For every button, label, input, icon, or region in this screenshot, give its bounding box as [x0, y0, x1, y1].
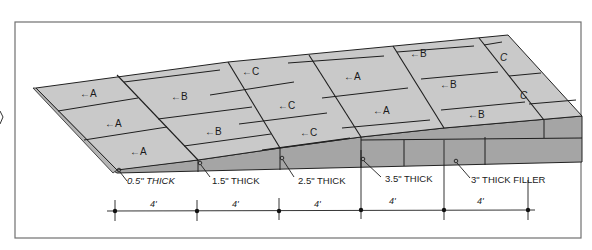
thickness-label: 1.5" THICK — [212, 175, 260, 186]
dimension-label: 4' — [389, 196, 396, 206]
panel-label: ←A — [80, 88, 97, 99]
ramp-diagram: ←A ←A ←A ←B ←B ←C ←C ←C ←A ←A ←B ←B ←B C… — [0, 0, 592, 250]
panel-label: ←C — [278, 100, 295, 111]
dimension-label: 4' — [232, 199, 239, 209]
thickness-label: 3" THICK FILLER — [471, 174, 546, 185]
thickness-label: 0.5" THICK — [127, 175, 175, 186]
panel-label: C — [500, 52, 508, 63]
panel-label: ←B — [410, 48, 427, 59]
dimension-label: 4' — [314, 199, 321, 209]
panel-label: ←A — [105, 118, 122, 129]
panel-label: ←B — [205, 126, 222, 137]
panel-label: ←A — [373, 105, 390, 116]
panel-label: ←B — [171, 91, 188, 102]
left-partial-chevron — [0, 111, 3, 124]
panel-label: ←C — [300, 127, 317, 138]
thickness-label: 3.5" THICK — [385, 173, 433, 184]
thickness-label: 2.5" THICK — [298, 175, 346, 186]
dimension-label: 4' — [477, 196, 484, 206]
dimension-label: 4' — [150, 199, 157, 209]
panel-label: ←A — [344, 71, 361, 82]
panel-label: ←C — [242, 66, 259, 77]
panel-label: C — [520, 90, 528, 101]
panel-label: ←B — [468, 109, 485, 120]
panel-label: ←B — [440, 79, 457, 90]
panel-label: ←A — [130, 146, 147, 157]
